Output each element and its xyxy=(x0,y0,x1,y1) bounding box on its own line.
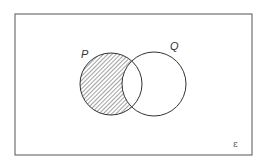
set-p-label: P xyxy=(81,48,89,60)
set-q-label: Q xyxy=(170,40,179,52)
universal-set-symbol: ε xyxy=(233,139,238,149)
venn-diagram: P Q ε xyxy=(0,0,267,167)
